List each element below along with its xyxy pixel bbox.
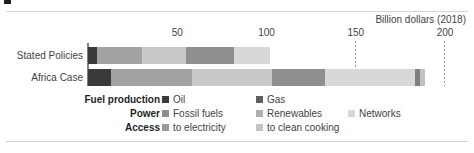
x-axis-tick-100: 100 xyxy=(258,27,275,38)
bar-segment xyxy=(325,69,414,86)
x-axis-tick-50: 50 xyxy=(172,27,183,38)
bar-segment xyxy=(234,47,270,64)
bottom-divider xyxy=(6,141,468,142)
x-axis-tick-150: 150 xyxy=(347,27,364,38)
bar-segment xyxy=(272,69,326,86)
legend-swatch-icon xyxy=(162,124,169,131)
legend-item[interactable]: to clean cooking xyxy=(256,122,339,133)
legend-label: to electricity xyxy=(173,122,226,133)
legend-row-0: Fuel productionOilGas xyxy=(0,94,474,108)
bar-segment xyxy=(88,69,111,86)
legend-swatch-icon xyxy=(256,110,263,117)
gridline-200 xyxy=(444,41,445,86)
legend-label: Networks xyxy=(359,108,401,119)
legend-swatch-icon xyxy=(162,96,169,103)
legend-label: Gas xyxy=(267,94,285,105)
legend-label: Oil xyxy=(173,94,185,105)
bar-segment xyxy=(97,47,142,64)
bar-0 xyxy=(88,47,270,64)
legend-label: to clean cooking xyxy=(267,122,339,133)
bar-segment xyxy=(420,69,425,86)
bar-segment xyxy=(88,47,97,64)
bar-segment xyxy=(142,47,187,64)
legend-swatch-icon xyxy=(348,110,355,117)
bar-1 xyxy=(88,69,425,86)
legend-row-2: Accessto electricityto clean cooking xyxy=(0,122,474,136)
legend-group-heading: Fuel production xyxy=(40,94,160,105)
legend-item[interactable]: Fossil fuels xyxy=(162,108,223,119)
legend-swatch-icon xyxy=(256,124,263,131)
legend-group-heading: Access xyxy=(40,122,160,133)
legend-label: Renewables xyxy=(267,108,322,119)
bar-segment xyxy=(186,47,234,64)
category-label-0: Stated Policies xyxy=(17,50,83,61)
bar-segment xyxy=(111,69,191,86)
bar-segment xyxy=(192,69,272,86)
legend-swatch-icon xyxy=(256,96,263,103)
legend-item[interactable]: Oil xyxy=(162,94,185,105)
legend-item[interactable]: to electricity xyxy=(162,122,226,133)
legend-item[interactable]: Networks xyxy=(348,108,401,119)
legend-row-1: PowerFossil fuelsRenewablesNetworks xyxy=(0,108,474,122)
category-label-1: Africa Case xyxy=(31,72,83,83)
chart-legend: Fuel productionOilGasPowerFossil fuelsRe… xyxy=(0,94,474,136)
x-axis-tick-200: 200 xyxy=(437,27,454,38)
legend-swatch-icon xyxy=(162,110,169,117)
legend-group-heading: Power xyxy=(40,108,160,119)
legend-item[interactable]: Renewables xyxy=(256,108,322,119)
legend-item[interactable]: Gas xyxy=(256,94,285,105)
legend-label: Fossil fuels xyxy=(173,108,223,119)
